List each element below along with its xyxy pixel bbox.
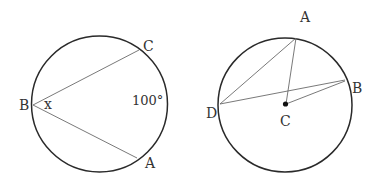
- label-left-b: B: [19, 97, 29, 113]
- label-arc-measure: 100°: [132, 93, 163, 108]
- label-right-a: A: [299, 9, 311, 25]
- radius-ca: [286, 38, 296, 104]
- left-figure: C A B x 100°: [19, 36, 168, 172]
- label-right-c: C: [280, 113, 291, 129]
- label-right-d: D: [206, 105, 217, 121]
- radius-cb: [286, 81, 345, 104]
- geometry-diagram: C A B x 100° A B C D: [0, 0, 380, 185]
- chord-da: [220, 38, 296, 104]
- right-figure: A B C D: [206, 9, 362, 172]
- label-angle-x: x: [44, 96, 52, 112]
- chord-db: [220, 80, 345, 104]
- label-left-a: A: [144, 155, 156, 171]
- center-point-c: [283, 101, 288, 106]
- label-right-b: B: [352, 80, 362, 96]
- label-left-c: C: [143, 38, 154, 54]
